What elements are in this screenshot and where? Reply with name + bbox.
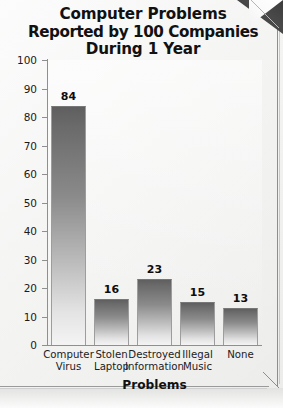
- bar: [137, 279, 172, 345]
- y-axis-tick-label: 60: [9, 169, 37, 179]
- y-axis-tick: [42, 89, 47, 90]
- y-axis-tick: [42, 288, 47, 289]
- y-axis-tick: [42, 345, 47, 346]
- y-axis-tick-label: 80: [9, 112, 37, 122]
- y-axis-tick: [42, 317, 47, 318]
- bar-value-label: 16: [84, 284, 139, 295]
- chart-title: Computer Problems Reported by 100 Compan…: [24, 6, 262, 59]
- bar: [223, 308, 258, 345]
- bar: [94, 299, 129, 345]
- scanned-chart-page: Computer Problems Reported by 100 Compan…: [0, 0, 283, 408]
- bar-value-label: 23: [127, 264, 182, 275]
- x-axis-line: [47, 345, 262, 346]
- y-axis-tick-label: 30: [9, 255, 37, 265]
- y-axis-tick: [42, 260, 47, 261]
- x-axis-category-label-line: Music: [167, 361, 229, 373]
- y-axis-line: [47, 59, 48, 346]
- title-line-1: Computer Problems: [24, 6, 262, 24]
- title-line-2: Reported by 100 Companies: [24, 24, 262, 42]
- page-frame-right-inner: [279, 16, 280, 384]
- y-axis-tick-label: 20: [9, 283, 37, 293]
- y-axis-tick-label: 70: [9, 141, 37, 151]
- y-axis-tick: [42, 146, 47, 147]
- y-axis-tick-label: 100: [9, 55, 37, 65]
- y-axis-tick: [42, 60, 47, 61]
- bar-value-label: 13: [213, 293, 268, 304]
- bar-value-label: 84: [41, 91, 96, 102]
- page-corner-bevel-bottom-right: [263, 372, 279, 388]
- y-axis-tick: [42, 203, 47, 204]
- page-frame-right-edge: [277, 14, 278, 386]
- y-axis-tick-label: 50: [9, 198, 37, 208]
- y-axis-tick-label: 90: [9, 84, 37, 94]
- x-axis-category-label-line: None: [210, 349, 272, 361]
- bar: [180, 302, 215, 345]
- y-axis-tick: [42, 117, 47, 118]
- y-axis-tick-label: 40: [9, 226, 37, 236]
- x-axis-category-label: None: [210, 349, 272, 361]
- bar: [51, 106, 86, 345]
- y-axis-tick: [42, 174, 47, 175]
- y-axis-tick: [42, 231, 47, 232]
- x-axis-title: Problems: [47, 378, 262, 392]
- title-line-3: During 1 Year: [24, 41, 262, 59]
- y-axis-tick-label: 0: [9, 340, 37, 350]
- y-axis-tick-label: 10: [9, 312, 37, 322]
